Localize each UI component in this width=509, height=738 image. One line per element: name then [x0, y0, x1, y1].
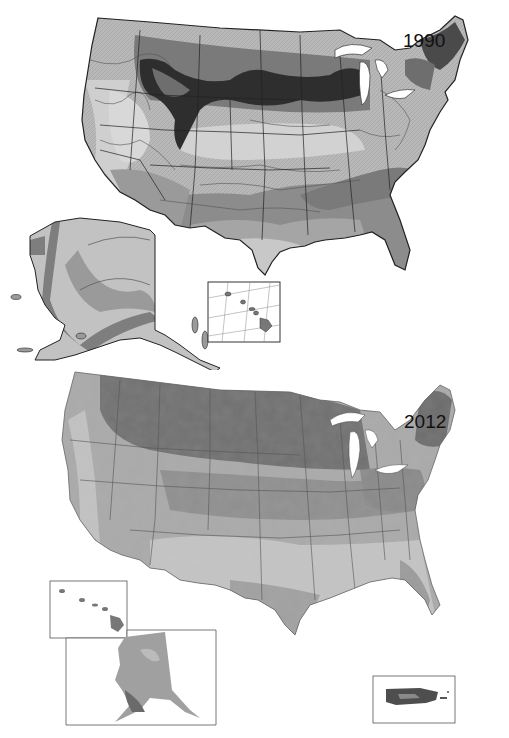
map-2012: 2012	[0, 368, 509, 738]
map-1990: 1990	[0, 0, 509, 370]
alaska-inset-2012	[66, 630, 216, 725]
hawaii-inset-1990	[208, 282, 280, 342]
year-label-1990: 1990	[403, 30, 445, 51]
map-1990-artwork: 1990	[0, 0, 509, 370]
year-label-2012: 2012	[404, 411, 446, 432]
map-2012-artwork: 2012	[0, 368, 509, 738]
alaska-inset-1990	[20, 210, 230, 370]
hawaii-inset-2012	[50, 581, 127, 638]
puerto-rico-inset-2012	[373, 676, 455, 723]
